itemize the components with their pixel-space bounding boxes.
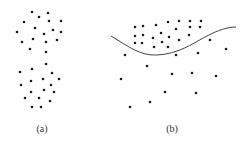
data-point bbox=[30, 80, 33, 83]
data-point bbox=[38, 16, 41, 19]
data-point bbox=[152, 37, 155, 40]
data-point bbox=[225, 48, 228, 51]
data-point bbox=[32, 38, 35, 41]
data-point bbox=[160, 32, 163, 35]
data-point bbox=[124, 54, 127, 57]
data-point bbox=[168, 36, 171, 39]
data-point bbox=[38, 97, 41, 100]
data-point bbox=[45, 41, 48, 44]
data-point bbox=[30, 91, 33, 94]
panel-a-label: (a) bbox=[36, 123, 47, 134]
data-point bbox=[200, 20, 203, 23]
data-point bbox=[149, 101, 152, 104]
figure: (a) (b) bbox=[0, 0, 252, 142]
data-point bbox=[189, 26, 192, 29]
data-point bbox=[175, 54, 178, 57]
data-point bbox=[197, 52, 200, 55]
data-point bbox=[142, 25, 145, 28]
lower-cluster bbox=[19, 63, 61, 109]
data-point bbox=[142, 34, 145, 37]
data-point bbox=[155, 24, 158, 27]
data-point bbox=[178, 39, 181, 42]
data-point bbox=[189, 20, 192, 23]
data-point bbox=[16, 31, 19, 34]
data-point bbox=[48, 20, 51, 23]
panel-b-label: (b) bbox=[166, 123, 178, 134]
data-point bbox=[175, 28, 178, 31]
data-point bbox=[60, 31, 63, 34]
data-point bbox=[195, 92, 198, 95]
data-point bbox=[178, 20, 181, 23]
sparse-points-below-curve bbox=[120, 39, 228, 109]
data-point bbox=[42, 78, 45, 81]
data-point bbox=[31, 106, 34, 109]
data-point bbox=[19, 71, 22, 74]
data-point bbox=[45, 63, 48, 66]
data-point bbox=[120, 78, 123, 81]
data-point bbox=[52, 29, 55, 32]
decision-boundary bbox=[111, 27, 236, 55]
data-point bbox=[34, 27, 37, 30]
data-point bbox=[141, 42, 144, 45]
data-point bbox=[146, 65, 149, 68]
data-point bbox=[199, 26, 202, 29]
data-point bbox=[24, 97, 27, 100]
data-point bbox=[47, 12, 50, 15]
data-point bbox=[31, 68, 34, 71]
data-point bbox=[215, 75, 218, 78]
data-point bbox=[153, 46, 156, 49]
data-point bbox=[40, 106, 43, 109]
data-point bbox=[161, 41, 164, 44]
data-point bbox=[134, 26, 137, 29]
upper-cluster bbox=[16, 11, 63, 54]
data-point bbox=[58, 78, 61, 81]
data-point bbox=[188, 34, 191, 37]
data-point bbox=[164, 91, 167, 94]
panel-b bbox=[111, 20, 236, 109]
data-point bbox=[53, 91, 56, 94]
data-point bbox=[209, 39, 212, 42]
data-point bbox=[43, 89, 46, 92]
data-point bbox=[23, 21, 26, 24]
data-point bbox=[60, 20, 63, 23]
data-point bbox=[129, 106, 132, 109]
scatter-plot-canvas bbox=[0, 0, 252, 142]
data-point bbox=[134, 42, 137, 45]
data-point bbox=[20, 84, 23, 87]
data-point bbox=[45, 51, 48, 54]
data-point bbox=[29, 48, 32, 51]
data-point bbox=[171, 73, 174, 76]
data-point bbox=[49, 100, 52, 103]
data-point bbox=[56, 39, 59, 42]
data-point bbox=[31, 11, 34, 14]
data-point bbox=[43, 33, 46, 36]
data-point bbox=[51, 72, 54, 75]
data-point bbox=[191, 72, 194, 75]
data-point bbox=[50, 84, 53, 87]
data-point bbox=[167, 21, 170, 24]
data-point bbox=[21, 41, 24, 44]
panel-a bbox=[16, 11, 63, 109]
data-point bbox=[134, 35, 137, 38]
data-point bbox=[167, 46, 170, 49]
